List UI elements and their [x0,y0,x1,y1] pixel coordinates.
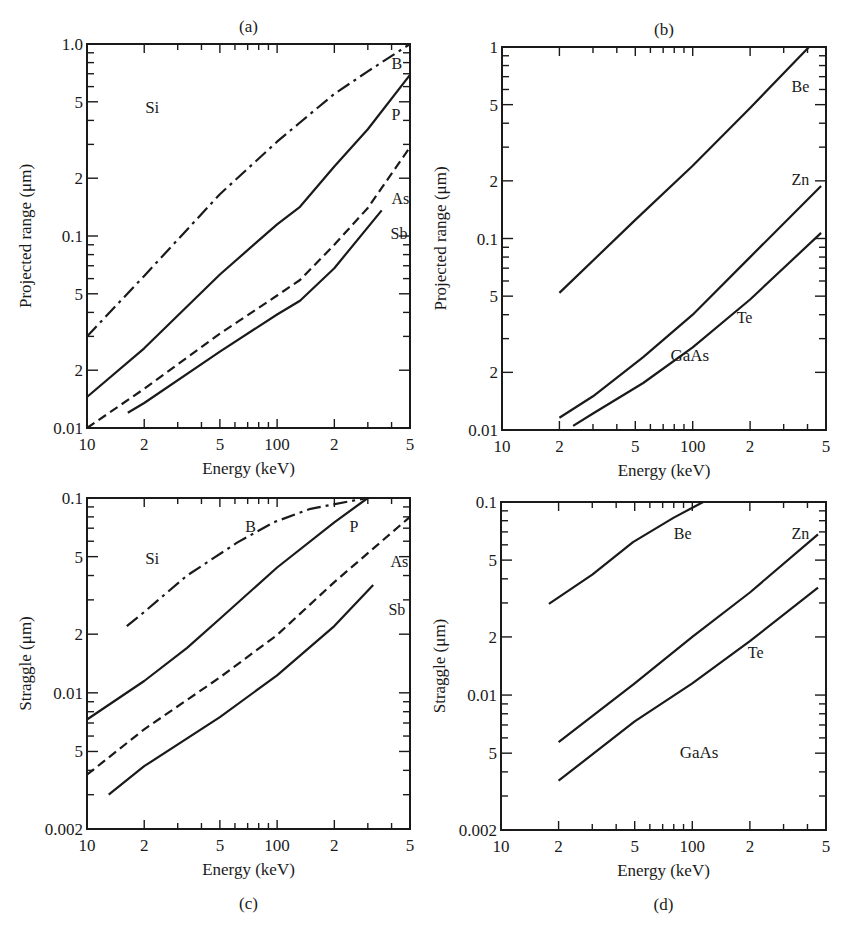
y-tick-label: 2 [75,361,84,380]
figure-canvas: 1025100250.01250.1251.0Energy (keV)Proje… [0,0,848,934]
y-tick-label: 2 [489,628,498,647]
x-tick-label: 2 [555,437,564,456]
y-tick-label: 2 [75,625,84,644]
y-tick-label: 5 [75,285,84,304]
x-tick-label: 2 [140,836,149,855]
curve-te [573,233,821,426]
curve-zn [559,534,818,742]
y-tick-label: 2 [75,169,84,188]
x-tick-label: 100 [264,435,290,454]
curve-as [87,517,410,775]
x-tick-label: 2 [330,836,339,855]
y-tick-label: 0.01 [467,686,497,705]
panel-label: (a) [239,17,258,36]
x-tick-label: 5 [631,437,640,456]
curve-sb [109,585,374,795]
series-label-p: P [349,518,358,535]
series-label-be: Be [792,78,810,95]
x-tick-label: 100 [680,437,706,456]
curve-be [549,502,703,604]
x-tick-label: 5 [630,837,639,856]
y-tick-label: 5 [489,551,498,570]
curve-b [87,44,410,336]
series-label-b: B [392,55,403,72]
y-tick-label: 5 [75,548,84,567]
y-tick-label: 0.002 [459,821,497,840]
x-tick-label: 5 [406,836,415,855]
y-tick-label: 2 [490,363,499,382]
y-tick-label: 0.01 [468,421,498,440]
x-tick-label: 2 [746,837,755,856]
y-tick-label: 0.1 [477,230,498,249]
y-tick-label: 0.002 [45,820,83,839]
y-tick-label: 5 [490,287,499,306]
curve-p [87,498,368,720]
y-tick-label: 5 [75,93,84,112]
y-tick-label: 1 [490,38,499,57]
x-tick-label: 100 [680,837,706,856]
substrate-label: Si [145,98,159,117]
curve-be [559,47,809,293]
panel-b-projected-range-gaas: 1025100250.01250.1251Energy (keV)Project… [431,20,830,480]
panel-label: (c) [239,894,258,913]
series-label-b: B [245,518,256,535]
series-label-be: Be [674,525,692,542]
series-label-te: Te [737,309,753,326]
substrate-label: GaAs [680,743,719,762]
curve-as [87,147,410,428]
x-tick-label: 5 [822,837,831,856]
axis-ticks [87,498,410,829]
series-label-sb: Sb [391,225,408,242]
axis-ticks [501,502,826,830]
plot-frame [87,498,410,829]
plot-frame [501,502,826,830]
x-axis-title: Energy (keV) [202,459,295,478]
series-label-p: P [392,106,401,123]
x-tick-label: 2 [330,435,339,454]
y-tick-label: 0.01 [53,684,83,703]
substrate-label: Si [145,549,159,568]
y-tick-label: 5 [489,744,498,763]
x-tick-label: 100 [264,836,290,855]
y-tick-label: 0.1 [476,493,497,512]
curve-zn [559,186,821,418]
series-label-as: As [392,190,410,207]
x-tick-label: 2 [140,435,149,454]
y-axis-title: Projected range (μm) [431,166,450,310]
x-tick-label: 5 [216,836,225,855]
series-label-sb: Sb [388,601,405,618]
x-tick-label: 2 [746,437,755,456]
x-axis-title: Energy (keV) [618,461,711,480]
x-tick-label: 5 [216,435,225,454]
panel-a-projected-range-si: 1025100250.01250.1251.0Energy (keV)Proje… [16,17,414,478]
y-tick-label: 5 [75,742,84,761]
panel-label: (b) [654,20,674,39]
panel-d-straggle-gaas: 1025100250.00250.01250.1Energy (keV)Stra… [430,493,830,914]
y-tick-label: 1.0 [62,35,83,54]
y-tick-label: 0.01 [53,419,83,438]
x-axis-title: Energy (keV) [202,860,295,879]
y-tick-label: 2 [490,172,499,191]
y-tick-label: 5 [490,96,499,115]
series-label-te: Te [748,644,764,661]
y-tick-label: 0.1 [62,489,83,508]
x-tick-label: 2 [554,837,563,856]
series-label-zn: Zn [791,525,809,542]
panel-c-straggle-si: 1025100250.00250.01250.1Energy (keV)Stra… [16,489,414,913]
axis-ticks [502,47,826,430]
panel-label: (d) [654,895,674,914]
x-axis-title: Energy (keV) [617,861,710,880]
y-axis-title: Projected range (μm) [16,164,35,308]
y-axis-title: Straggle (μm) [430,619,449,714]
y-tick-label: 0.1 [62,227,83,246]
series-label-as: As [391,553,409,570]
x-tick-label: 5 [406,435,415,454]
x-tick-label: 5 [822,437,831,456]
series-label-zn: Zn [792,171,810,188]
y-axis-title: Straggle (μm) [16,616,35,711]
plot-frame [502,47,826,430]
